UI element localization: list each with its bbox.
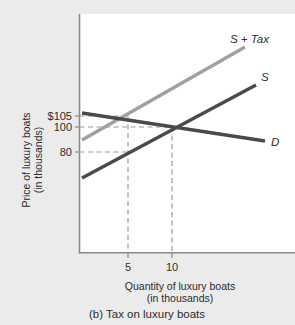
curve-label-supply: S: [261, 71, 269, 83]
curve-label-supply-plus-tax: S + Tax: [230, 33, 270, 45]
x-axis-title-line2: (in thousands): [147, 292, 214, 304]
x-axis-title-line1: Quantity of luxury boats: [125, 280, 235, 292]
curve-label-demand: D: [271, 136, 279, 148]
y-tick-label-80: 80: [60, 146, 72, 158]
x-tick-label-10: 10: [166, 261, 178, 273]
figure-caption: (b) Tax on luxury boats: [89, 308, 205, 320]
x-tick-label-5: 5: [125, 261, 131, 273]
y-tick-label-100: 100: [54, 121, 72, 133]
y-axis-title-line2: (in thousands): [32, 127, 44, 194]
figure-tax-on-luxury-boats: $105 100 80 5 10 Price of luxury boats (…: [0, 0, 295, 325]
supply-demand-chart: $105 100 80 5 10 Price of luxury boats (…: [0, 0, 295, 325]
y-axis-title-line1: Price of luxury boats: [20, 112, 32, 207]
plot-area-background: [79, 14, 295, 253]
